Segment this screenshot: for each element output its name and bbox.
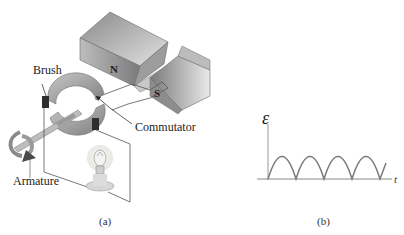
diagram-canvas [0,0,404,235]
light-bulb-icon [86,145,114,191]
brush-leader [42,84,46,96]
caption-a: (a) [99,216,111,227]
armature-label: Armature [13,175,59,187]
south-pole-label: S [154,88,160,99]
north-pole-label: N [110,64,118,75]
emf-graph [257,124,392,180]
time-axis-label: t [394,174,397,185]
brush-bottom [92,118,99,130]
commutator-label: Commutator [135,121,196,133]
emf-curve [268,157,386,180]
brush-top [42,96,49,108]
caption-b: (b) [317,216,330,227]
emf-axis-label: ε [262,109,269,127]
brush-label: Brush [33,64,62,76]
